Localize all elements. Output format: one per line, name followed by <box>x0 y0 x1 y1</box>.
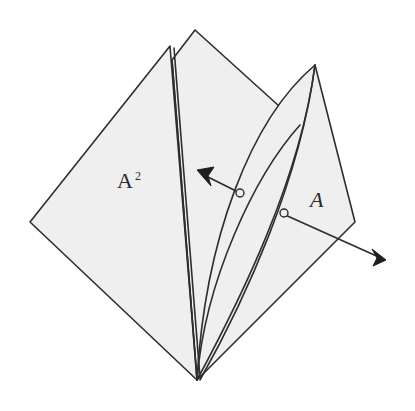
origami-diagram: A2 A <box>0 0 415 411</box>
pivot-circle-icon <box>236 189 244 197</box>
pivot-circle-icon <box>280 209 288 217</box>
left-flap <box>30 46 197 380</box>
arrow-head-icon <box>372 249 386 266</box>
label-right-flap: A <box>308 187 324 212</box>
